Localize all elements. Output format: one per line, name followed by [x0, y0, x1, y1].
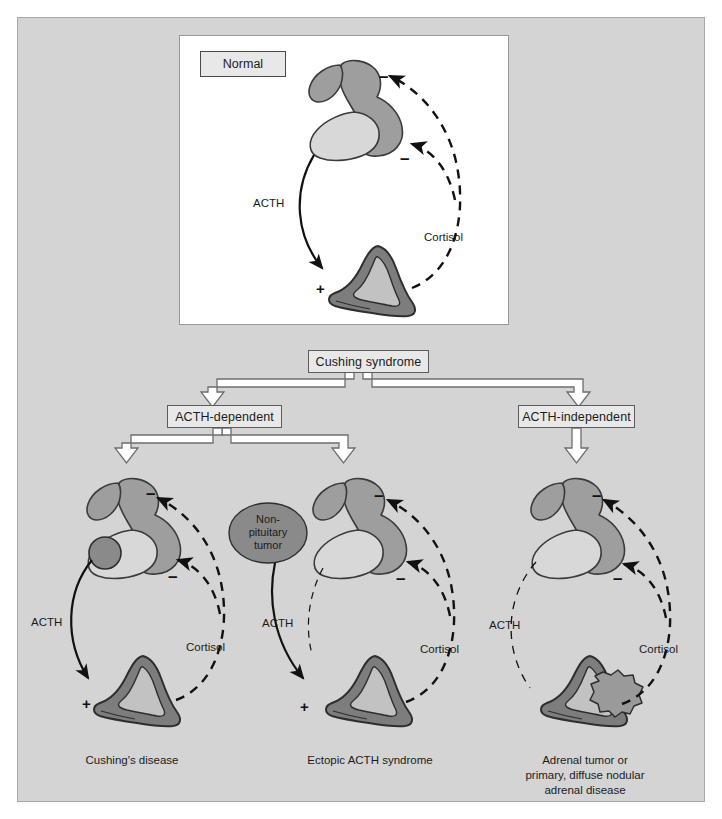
flow-box-acth-independent[interactable]: ACTH-independent	[518, 405, 635, 428]
feedback-sign-adrenal-upper: –	[592, 487, 601, 504]
normal-panel-graphics	[300, 61, 460, 317]
caption-adrenal-tumor: Adrenal tumor or primary, diffuse nodula…	[490, 753, 680, 798]
acth-label-normal: ACTH	[253, 197, 284, 209]
flow-box-cushing-syndrome[interactable]: Cushing syndrome	[308, 350, 429, 373]
flow-box-cushing-syndrome-label: Cushing syndrome	[316, 355, 422, 369]
stimulus-sign-normal: +	[316, 281, 325, 296]
cortisol-label-adrenal: Cortisol	[639, 643, 678, 655]
flow-arrow-dependent-right	[222, 428, 355, 463]
acth-label-cushings: ACTH	[31, 616, 62, 628]
cortisol-label-normal: Cortisol	[424, 231, 463, 243]
adrenal-gland-cushings	[94, 656, 180, 726]
cushings-disease-graphics	[71, 479, 224, 727]
stimulus-sign-cushings: +	[82, 696, 91, 711]
flow-arrow-dependent-left	[115, 428, 222, 463]
cortisol-arrow-adrenal-lower	[624, 564, 666, 618]
acth-arrow-normal	[300, 155, 322, 268]
figure-root: Normal ACTH Cortisol + – – Cushing syndr…	[0, 0, 722, 819]
flow-box-acth-independent-label: ACTH-independent	[522, 410, 631, 424]
stimulus-sign-ectopic: +	[300, 699, 309, 714]
flow-box-acth-dependent-label: ACTH-dependent	[175, 410, 274, 424]
feedback-sign-cushings-lower: –	[168, 568, 177, 585]
feedback-sign-normal-upper: –	[379, 68, 388, 85]
feedback-sign-normal-lower: –	[400, 150, 409, 167]
feedback-sign-ectopic-lower: –	[396, 570, 405, 587]
adrenal-tumor-graphics	[511, 479, 670, 727]
normal-title-label: Normal	[223, 57, 263, 71]
cortisol-label-cushings: Cortisol	[186, 641, 225, 653]
feedback-sign-adrenal-lower: –	[613, 570, 622, 587]
adrenal-gland-normal	[329, 246, 415, 316]
acth-label-ectopic: ACTH	[262, 617, 293, 629]
pituitary-adenoma	[89, 537, 121, 569]
pituitary-gland-adrenal	[531, 479, 624, 579]
flow-box-acth-dependent[interactable]: ACTH-dependent	[167, 405, 282, 428]
flow-arrow-root-left	[201, 372, 354, 407]
acth-suppressed-ectopic	[308, 568, 323, 654]
caption-cushings-disease: Cushing's disease	[32, 753, 232, 768]
cortisol-label-ectopic: Cortisol	[420, 643, 459, 655]
pituitary-gland-ectopic	[313, 479, 406, 579]
flow-arrow-independent	[565, 428, 588, 463]
cortisol-arrow-normal-lower	[412, 144, 455, 200]
pituitary-gland-normal	[309, 61, 402, 161]
adrenal-gland-ectopic	[326, 656, 412, 726]
cortisol-arrow-cushings-lower	[178, 560, 220, 614]
flow-arrow-root-split	[363, 372, 590, 407]
caption-ectopic-acth: Ectopic ACTH syndrome	[265, 753, 475, 768]
normal-title-box: Normal	[200, 51, 286, 77]
feedback-sign-cushings-upper: –	[146, 485, 155, 502]
feedback-sign-ectopic-upper: –	[374, 487, 383, 504]
acth-label-adrenal: ACTH	[489, 619, 520, 631]
non-pituitary-tumor-label: Non- pituitary tumor	[233, 513, 303, 552]
acth-arrow-cushings	[71, 560, 92, 678]
cortisol-arrow-ectopic-lower	[408, 562, 450, 616]
